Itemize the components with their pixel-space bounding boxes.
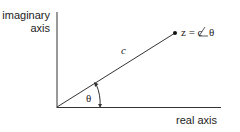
angle-theta-label: θ [86, 92, 91, 104]
point-z-marker [173, 31, 177, 35]
vector-line [57, 33, 175, 107]
angle-arrow-down-icon [98, 104, 102, 108]
angle-arc [96, 84, 100, 107]
magnitude-label: c [121, 44, 126, 56]
imaginary-axis-label-line1: imaginary [2, 9, 50, 21]
imaginary-axis-label-line2: axis [30, 22, 50, 34]
real-axis-label: real axis [176, 114, 217, 126]
point-angle-symbol: θ [209, 26, 214, 38]
point-z-label: z = c [181, 26, 202, 38]
